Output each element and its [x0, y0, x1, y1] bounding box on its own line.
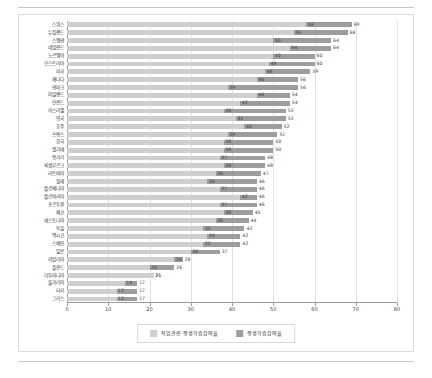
category-label: 오스트리아	[44, 62, 64, 67]
category-label: 뉴질랜드	[48, 30, 64, 35]
bar-row: 4234	[67, 234, 397, 239]
bar-row: 4634	[67, 179, 397, 184]
bar-value-lifelong: 64	[333, 46, 339, 51]
bar-value-lifelong: 54	[292, 101, 298, 106]
bar-vocational	[67, 101, 240, 106]
bar-vocational	[67, 195, 240, 200]
bar-row: 2826	[67, 257, 397, 262]
category-axis: 스위스뉴질랜드스웨덴네덜란드노르웨이오스트리아미국캐나다덴마크아일랜드핀란드이스…	[21, 21, 67, 303]
category-label: 일본	[56, 250, 64, 255]
bar-row: 3730	[67, 250, 397, 255]
bar-vocational	[67, 156, 220, 161]
bar-vocational	[67, 124, 244, 129]
bar-value-vocational: 38	[225, 148, 231, 153]
bar-value-vocational: 38	[225, 140, 231, 145]
category-label: 프랑스	[52, 132, 64, 137]
bar-row: 6855	[67, 30, 397, 35]
bar-row: 4736	[67, 171, 397, 176]
category-label: 멕시코	[52, 234, 64, 239]
bar-value-lifelong: 47	[263, 171, 269, 176]
x-axis-tick-label: 40	[229, 307, 235, 312]
bar-value-lifelong: 53	[288, 117, 294, 122]
bar-value-lifelong: 44	[251, 218, 257, 223]
bar-row: 5341	[67, 116, 397, 121]
legend-item-lifelong: 평생학습참여율	[236, 330, 282, 337]
bar-value-lifelong: 68	[350, 30, 356, 35]
bar-value-lifelong: 48	[267, 156, 273, 161]
bar-value-lifelong: 69	[354, 23, 360, 28]
bar-vocational	[67, 69, 265, 74]
bar-value-lifelong: 28	[185, 258, 191, 263]
bar-row: 4642	[67, 195, 397, 200]
category-label: 호주	[56, 124, 64, 129]
x-axis-tick-label: 80	[394, 307, 400, 312]
category-label: 스웨덴	[52, 38, 64, 43]
bar-value-lifelong: 56	[300, 85, 306, 90]
category-label: 슬로베니아	[44, 187, 64, 192]
chart-page: 스위스뉴질랜드스웨덴네덜란드노르웨이오스트리아미국캐나다덴마크아일랜드핀란드이스…	[0, 0, 432, 378]
bar-vocational	[67, 62, 269, 67]
bar-row: 5646	[67, 77, 397, 82]
category-label: 칠레	[56, 179, 64, 184]
bar-value-lifelong: 42	[242, 242, 248, 247]
bar-value-vocational: 14	[126, 281, 132, 286]
x-axis-tick-label: 70	[353, 307, 359, 312]
bottom-divider	[18, 361, 414, 362]
category-label: 그리스	[52, 297, 64, 302]
x-axis-tick-label: 50	[270, 307, 276, 312]
bar-value-lifelong: 43	[246, 226, 252, 231]
category-label: 불가리아	[48, 281, 64, 286]
bar-row: 2620	[67, 265, 397, 270]
gridline	[397, 21, 398, 303]
bar-value-vocational: 20	[151, 265, 157, 270]
bar-value-lifelong: 59	[312, 70, 318, 75]
bar-value-vocational: 33	[205, 226, 211, 231]
bar-value-lifelong: 52	[283, 124, 289, 129]
bar-row: 1712	[67, 297, 397, 302]
bar-row: 5338	[67, 109, 397, 114]
bar-vocational	[67, 289, 117, 294]
category-label: 폴란드	[52, 265, 64, 270]
bar-row: 4637	[67, 203, 397, 208]
bar-vocational	[67, 77, 257, 82]
bar-vocational	[67, 22, 306, 27]
bar-vocational	[67, 187, 220, 192]
bar-value-vocational: 55	[295, 30, 301, 35]
legend-swatch-icon-vocational	[150, 330, 157, 337]
bar-row: 5442	[67, 101, 397, 106]
bar-value-vocational: 50	[275, 38, 281, 43]
bar-row: 6450	[67, 38, 397, 43]
bar-vocational	[67, 265, 150, 270]
bar-value-lifelong: 53	[288, 109, 294, 114]
x-axis-tick-label: 60	[311, 307, 317, 312]
x-axis-tick-label: 10	[105, 307, 111, 312]
bar-vocational	[67, 38, 273, 43]
bar-value-vocational: 49	[271, 62, 277, 67]
bar-value-vocational: 41	[238, 117, 244, 122]
bar-value-vocational: 21	[155, 273, 161, 278]
bar-row: 5139	[67, 132, 397, 137]
category-label: 포르투갈	[48, 203, 64, 208]
bar-value-lifelong: 50	[275, 148, 281, 153]
bar-value-vocational: 30	[192, 250, 198, 255]
bar-value-vocational: 42	[242, 101, 248, 106]
bar-value-vocational: 39	[229, 132, 235, 137]
bar-value-lifelong: 42	[242, 234, 248, 239]
category-label: 벨기에	[52, 148, 64, 153]
bar-row: 4233	[67, 242, 397, 247]
bar-vocational	[67, 281, 125, 286]
bar-row: 5948	[67, 69, 397, 74]
category-label: 영국	[56, 117, 64, 122]
bar-value-vocational: 38	[225, 211, 231, 216]
category-label: 미국	[56, 70, 64, 75]
bar-value-vocational: 34	[209, 179, 215, 184]
category-label: 캐나다	[52, 77, 64, 82]
bar-value-lifelong: 54	[292, 93, 298, 98]
bar-vocational	[67, 226, 203, 231]
bar-value-vocational: 37	[221, 156, 227, 161]
bar-vocational	[67, 250, 191, 255]
bar-value-vocational: 43	[246, 124, 252, 129]
category-label: 슬로바키아	[44, 195, 64, 200]
bar-row: 1712	[67, 289, 397, 294]
bar-vocational	[67, 218, 216, 223]
